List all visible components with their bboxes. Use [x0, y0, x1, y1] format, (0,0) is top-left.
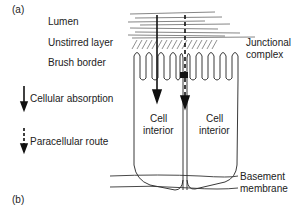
label-junctional-complex-2: complex	[246, 49, 283, 61]
unstirred-layer	[132, 40, 217, 49]
legend-paracellular-route: Paracellular route	[30, 136, 108, 148]
label-cell-left-2: interior	[143, 125, 174, 137]
lumen-region	[128, 12, 255, 38]
label-junctional-complex-1: Junctional	[246, 37, 291, 49]
basement-membrane	[110, 175, 238, 189]
legend-cellular-absorption: Cellular absorption	[30, 93, 113, 105]
label-cell-right-2: interior	[199, 125, 230, 137]
label-basement-2: membrane	[240, 183, 288, 195]
panel-label-a: (a)	[12, 4, 24, 16]
label-brush-border: Brush border	[48, 57, 106, 69]
label-unstirred-layer: Unstirred layer	[48, 37, 113, 49]
label-lumen: Lumen	[48, 16, 79, 28]
panel-label-b: (b)	[12, 194, 24, 206]
label-cell-right-1: Cell	[206, 113, 223, 125]
label-basement-1: Basement	[240, 171, 285, 183]
junctional-complex-block	[180, 72, 188, 78]
legend-solid-arrow-icon	[21, 86, 27, 110]
label-cell-left-1: Cell	[150, 113, 167, 125]
legend-dashed-arrow-icon	[21, 128, 27, 152]
